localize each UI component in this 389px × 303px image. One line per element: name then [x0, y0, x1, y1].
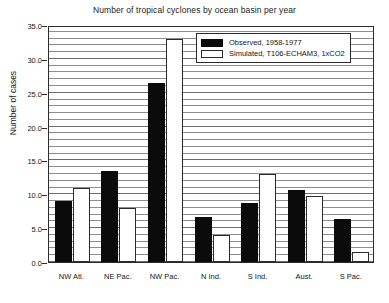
- x-tick-label: N Ind.: [201, 272, 221, 281]
- y-tick-label: 5.0: [32, 225, 42, 234]
- y-tick-label: 30.0: [27, 55, 42, 64]
- y-tick-mark: [42, 229, 47, 230]
- x-tick-label: NE Pac.: [104, 272, 132, 281]
- legend-swatch-simulated-icon: [201, 50, 223, 58]
- legend-label-observed: Observed, 1958-1977: [229, 38, 302, 47]
- y-tick-mark: [42, 60, 47, 61]
- y-axis: Number of cases 0.05.010.015.020.025.030…: [0, 0, 46, 303]
- chart-legend: Observed, 1958-1977 Simulated, T106-ECHA…: [196, 33, 351, 63]
- legend-item-observed: Observed, 1958-1977: [201, 37, 345, 48]
- x-tick-label: S Ind.: [248, 272, 268, 281]
- y-tick-label: 25.0: [27, 89, 42, 98]
- legend-item-simulated: Simulated, T106-ECHAM3, 1xCO2: [201, 48, 345, 59]
- y-tick-mark: [42, 195, 47, 196]
- x-tick-label: NW Pac.: [150, 272, 180, 281]
- y-tick-mark: [42, 26, 47, 27]
- y-tick-label: 10.0: [27, 191, 42, 200]
- x-tick-label: NW Atl.: [59, 272, 84, 281]
- x-axis: NW Atl.NE Pac.NW Pac.N Ind.S Ind.Aust.S …: [48, 266, 374, 286]
- y-tick-label: 15.0: [27, 157, 42, 166]
- y-tick-mark: [42, 128, 47, 129]
- legend-swatch-observed-icon: [201, 39, 223, 47]
- chart-figure: Number of tropical cyclones by ocean bas…: [0, 0, 389, 303]
- bar-observed: [334, 219, 351, 262]
- y-tick-mark: [42, 263, 47, 264]
- x-tick-label: Aust.: [296, 272, 313, 281]
- bar-simulated: [352, 252, 369, 262]
- y-tick-mark: [42, 94, 47, 95]
- y-tick-label: 35.0: [27, 22, 42, 31]
- y-tick-mark: [42, 161, 47, 162]
- chart-title: Number of tropical cyclones by ocean bas…: [0, 5, 389, 15]
- y-tick-label: 0.0: [32, 259, 42, 268]
- y-tick-label: 20.0: [27, 123, 42, 132]
- x-tick-label: S Pac.: [340, 272, 362, 281]
- legend-label-simulated: Simulated, T106-ECHAM3, 1xCO2: [229, 49, 345, 58]
- y-axis-title: Number of cases: [8, 43, 18, 163]
